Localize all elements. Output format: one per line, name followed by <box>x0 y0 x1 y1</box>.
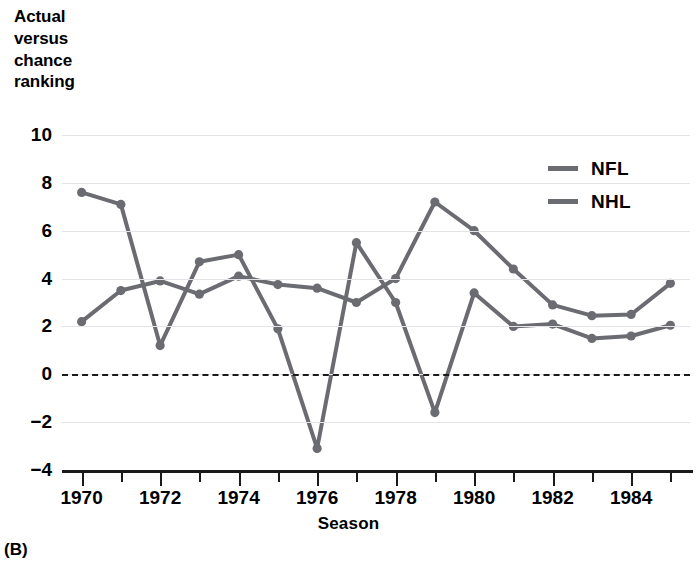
data-point-nhl <box>116 286 125 295</box>
x-axis-tick-label: 1978 <box>374 487 416 509</box>
data-point-nhl <box>273 280 282 289</box>
legend-item-nhl: NHL <box>548 185 678 218</box>
y-axis-tick-label: 8 <box>8 172 52 194</box>
gridline <box>62 135 690 136</box>
data-point-nhl <box>195 290 204 299</box>
x-axis-tick-label: 1984 <box>610 487 652 509</box>
legend-swatch-nfl <box>548 166 578 171</box>
x-axis-tick <box>239 473 241 486</box>
y-axis-label-line-2: versus <box>14 28 134 50</box>
x-axis-tick <box>278 473 280 482</box>
data-point-nfl <box>234 250 243 259</box>
data-point-nhl <box>587 311 596 320</box>
data-point-nhl <box>77 317 86 326</box>
data-point-nhl <box>430 197 439 206</box>
y-axis-tick-label: −4 <box>8 459 52 481</box>
x-axis-tick <box>121 473 123 482</box>
data-point-nhl <box>666 279 675 288</box>
x-axis-tick <box>82 473 84 486</box>
legend-label-nfl: NFL <box>591 158 629 180</box>
x-axis-tick-label: 1974 <box>217 487 259 509</box>
data-point-nfl <box>470 288 479 297</box>
x-axis-tick <box>317 473 319 486</box>
x-axis-tick-label: 1980 <box>453 487 495 509</box>
x-axis-tick-label: 1982 <box>531 487 573 509</box>
x-axis-tick <box>356 473 358 482</box>
gridline <box>62 231 690 232</box>
gridline <box>62 326 690 327</box>
x-axis-tick <box>513 473 515 482</box>
y-axis-tick-label: −2 <box>8 411 52 433</box>
data-point-nfl <box>77 188 86 197</box>
x-axis-tick <box>670 473 672 482</box>
chart-legend: NFL NHL <box>548 152 678 218</box>
data-point-nfl <box>666 321 675 330</box>
series-line-nhl <box>82 202 671 322</box>
legend-swatch-nhl <box>548 199 578 204</box>
x-axis-line <box>62 470 693 473</box>
data-point-nfl <box>156 341 165 350</box>
legend-item-nfl: NFL <box>548 152 678 185</box>
data-point-nhl <box>352 298 361 307</box>
y-axis-tick-label: 10 <box>8 124 52 146</box>
data-point-nhl <box>627 310 636 319</box>
x-axis-tick <box>435 473 437 482</box>
x-axis-tick <box>631 473 633 486</box>
x-axis-tick <box>592 473 594 482</box>
data-point-nfl <box>627 331 636 340</box>
panel-label: (B) <box>4 540 28 560</box>
y-axis-label-line-3: chance <box>14 50 134 72</box>
x-axis-tick-label: 1976 <box>296 487 338 509</box>
x-axis-tick <box>474 473 476 486</box>
y-axis-tick-label: 2 <box>8 315 52 337</box>
gridline <box>62 279 690 280</box>
legend-label-nhl: NHL <box>591 191 631 213</box>
y-axis-tick-label: 0 <box>8 363 52 385</box>
zero-reference-line <box>62 374 690 376</box>
gridline <box>62 422 690 423</box>
data-point-nfl <box>195 257 204 266</box>
y-axis-tick-labels: 1086420−2−4 <box>0 135 52 470</box>
chart-figure: Actual versus chance ranking 1086420−2−4… <box>0 0 697 568</box>
data-point-nfl <box>313 444 322 453</box>
x-axis-tick <box>160 473 162 486</box>
y-axis-label-line-1: Actual <box>14 6 134 28</box>
x-axis-tick-label: 1970 <box>60 487 102 509</box>
y-axis-tick-label: 4 <box>8 268 52 290</box>
y-axis-tick-label: 6 <box>8 220 52 242</box>
data-point-nfl <box>430 408 439 417</box>
data-point-nfl <box>352 238 361 247</box>
y-axis-label-line-4: ranking <box>14 71 134 93</box>
y-axis-label: Actual versus chance ranking <box>14 6 134 93</box>
x-axis-tick <box>396 473 398 486</box>
x-axis-tick-label: 1972 <box>139 487 181 509</box>
x-axis-label: Season <box>0 514 697 534</box>
data-point-nhl <box>548 300 557 309</box>
data-point-nfl <box>116 200 125 209</box>
x-axis-tick <box>199 473 201 482</box>
data-point-nhl <box>509 264 518 273</box>
x-axis-tick <box>553 473 555 486</box>
data-point-nfl <box>587 334 596 343</box>
data-point-nfl <box>391 298 400 307</box>
data-point-nhl <box>313 284 322 293</box>
